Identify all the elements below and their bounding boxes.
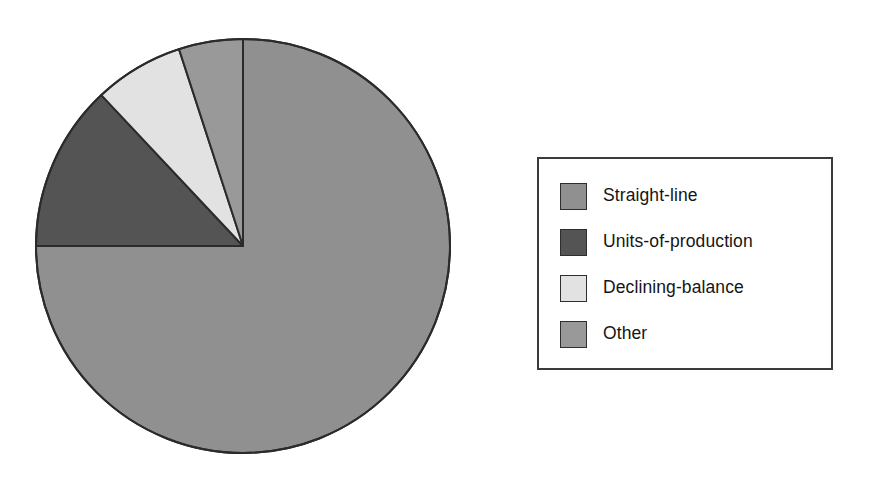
pie-chart-svg <box>0 0 500 486</box>
pie-chart-area <box>0 0 500 486</box>
legend-item-declining-balance[interactable]: Declining-balance <box>560 265 818 311</box>
legend-item-label: Declining-balance <box>603 279 744 297</box>
legend-item-straight-line[interactable]: Straight-line <box>560 173 818 219</box>
legend-item-units-of-production[interactable]: Units-of-production <box>560 219 818 265</box>
legend-item-label: Straight-line <box>603 187 698 205</box>
pie-chart-figure: Straight-line Units-of-production Declin… <box>0 0 869 486</box>
pie-slices-group <box>36 39 450 453</box>
legend-swatch-icon <box>560 183 587 210</box>
legend-swatch-icon <box>560 229 587 256</box>
legend-items-list: Straight-line Units-of-production Declin… <box>560 173 818 357</box>
legend-item-label: Units-of-production <box>603 233 753 251</box>
legend-item-other[interactable]: Other <box>560 311 818 357</box>
legend-swatch-icon <box>560 321 587 348</box>
legend-box: Straight-line Units-of-production Declin… <box>537 157 833 370</box>
legend-swatch-icon <box>560 275 587 302</box>
legend-item-label: Other <box>603 325 647 343</box>
